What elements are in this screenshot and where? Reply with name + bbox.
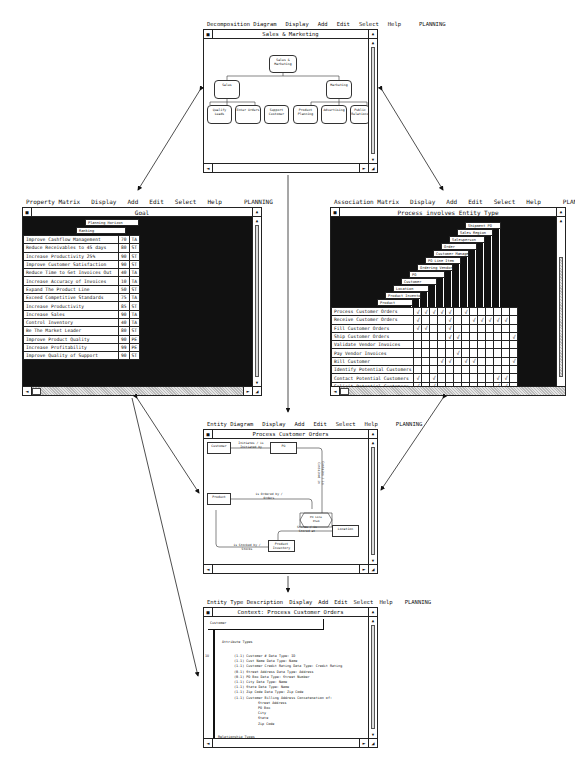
navigation-arrows [0, 0, 575, 765]
